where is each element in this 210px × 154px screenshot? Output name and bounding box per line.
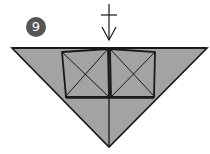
origami-diagram: 9 [0,0,210,154]
step-number: 9 [32,19,40,34]
fold-arrow-icon [101,4,117,40]
step-number-badge: 9 [26,17,46,37]
